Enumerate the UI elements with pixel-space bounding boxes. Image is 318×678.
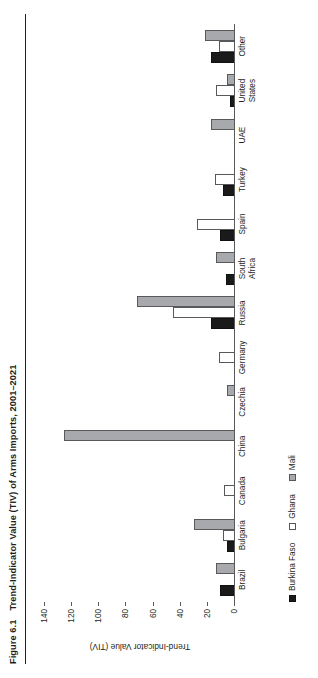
bar bbox=[216, 85, 235, 96]
y-tick-mark bbox=[98, 602, 99, 606]
figure-number: Figure 6.1 bbox=[8, 620, 18, 664]
bar bbox=[211, 119, 235, 130]
bar bbox=[211, 318, 235, 329]
bar bbox=[215, 174, 235, 185]
legend-swatch-icon bbox=[289, 595, 296, 602]
bar-group bbox=[45, 558, 235, 602]
bar-group bbox=[45, 291, 235, 335]
y-tick-mark bbox=[207, 602, 208, 606]
category-label: Germany bbox=[238, 335, 259, 379]
figure-title: Trend-Indicator Value (TIV) of Arms Impo… bbox=[8, 365, 18, 611]
y-tick-label: 0 bbox=[230, 609, 239, 614]
y-tick-mark bbox=[71, 602, 72, 606]
bar-group bbox=[45, 157, 235, 201]
y-tick-mark bbox=[180, 602, 181, 606]
bar bbox=[211, 52, 235, 63]
bar-group bbox=[45, 513, 235, 557]
y-tick-mark bbox=[234, 602, 235, 606]
y-tick-label: 100 bbox=[94, 609, 103, 623]
legend-item[interactable]: Burkina Faso bbox=[288, 543, 297, 602]
bar bbox=[219, 41, 235, 52]
y-tick-label: 60 bbox=[148, 609, 157, 618]
category-label: UAE bbox=[238, 113, 259, 157]
bar-group bbox=[45, 113, 235, 157]
y-tick-label: 40 bbox=[175, 609, 184, 618]
bar-groups bbox=[45, 24, 235, 602]
legend-item[interactable]: Mali bbox=[288, 455, 297, 481]
category-label: Spain bbox=[238, 202, 259, 246]
caption-divider bbox=[25, 14, 26, 664]
legend-swatch-icon bbox=[289, 474, 296, 481]
category-label: Czechia bbox=[238, 380, 259, 424]
bar bbox=[173, 307, 235, 318]
y-axis-title: Trend-Indicator Value (TIV) bbox=[45, 640, 235, 654]
category-labels: BrazilBulgariaCanadaChinaCzechiaGermanyR… bbox=[238, 24, 259, 602]
y-tick-label: 120 bbox=[67, 609, 76, 623]
plot-area: 020406080100120140 bbox=[45, 24, 235, 602]
bar-group bbox=[45, 24, 235, 68]
bar bbox=[197, 219, 235, 230]
legend-label: Burkina Faso bbox=[288, 543, 297, 591]
legend-swatch-icon bbox=[289, 523, 296, 530]
y-tick-mark bbox=[125, 602, 126, 606]
category-label: Other bbox=[238, 24, 259, 68]
category-label: South Africa bbox=[238, 246, 259, 290]
legend-label: Mali bbox=[288, 455, 297, 470]
bar bbox=[219, 352, 235, 363]
y-tick-mark bbox=[153, 602, 154, 606]
figure-caption: Figure 6.1Trend-Indicator Value (TIV) of… bbox=[8, 365, 18, 664]
legend-label: Ghana bbox=[288, 494, 297, 519]
category-label: Bulgaria bbox=[238, 513, 259, 557]
bar bbox=[205, 30, 235, 41]
bar bbox=[220, 230, 235, 241]
bar-group bbox=[45, 68, 235, 112]
bar-group bbox=[45, 424, 235, 468]
category-label: Brazil bbox=[238, 558, 259, 602]
x-axis-line bbox=[234, 24, 235, 602]
bar-group bbox=[45, 246, 235, 290]
y-tick-label: 80 bbox=[121, 609, 130, 618]
bar bbox=[64, 430, 235, 441]
figure-container: Figure 6.1Trend-Indicator Value (TIV) of… bbox=[0, 0, 318, 678]
bar-group bbox=[45, 202, 235, 246]
bar bbox=[137, 296, 235, 307]
category-label: Canada bbox=[238, 469, 259, 513]
bar-group bbox=[45, 335, 235, 379]
category-label: United States bbox=[238, 68, 259, 112]
bar bbox=[216, 563, 235, 574]
bar-group bbox=[45, 380, 235, 424]
bar bbox=[216, 252, 235, 263]
bar bbox=[220, 585, 235, 596]
bar-group bbox=[45, 469, 235, 513]
category-label: Turkey bbox=[238, 157, 259, 201]
y-tick-label: 20 bbox=[202, 609, 211, 618]
legend-item[interactable]: Ghana bbox=[288, 494, 297, 530]
chart-legend: Burkina FasoGhanaMali bbox=[288, 455, 297, 602]
y-tick-label: 140 bbox=[40, 609, 49, 623]
bar bbox=[194, 519, 235, 530]
y-tick-mark bbox=[44, 602, 45, 606]
category-label: China bbox=[238, 424, 259, 468]
category-label: Russia bbox=[238, 291, 259, 335]
